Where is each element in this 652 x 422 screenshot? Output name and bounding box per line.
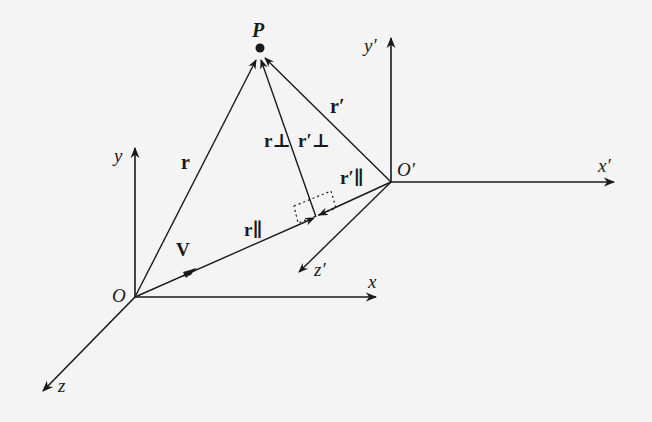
label-vector-r-parallel-prime: r′∥ (340, 167, 364, 188)
label-vector-v: V (176, 239, 190, 260)
label-o-prime: O′ (397, 159, 416, 180)
label-axis-y-prime: y′ (362, 35, 377, 56)
right-angle-marker (294, 191, 336, 223)
label-o: O (112, 285, 126, 306)
label-axis-z: z (57, 375, 66, 396)
label-p: P (251, 19, 265, 41)
label-axis-x: x (367, 271, 377, 292)
vector-r (135, 60, 256, 297)
label-vector-r-parallel: r∥ (244, 219, 263, 240)
vector-r-prime (265, 58, 391, 182)
coordinate-frames-diagram: P O O′ y x z y′ x′ z′ r r′ r⊥ r′⊥ r∥ r′∥… (0, 0, 652, 422)
velocity-arrow-icon (183, 268, 197, 278)
label-axis-z-prime: z′ (313, 259, 326, 280)
vector-r-parallel (135, 218, 314, 297)
label-axis-x-prime: x′ (597, 155, 611, 176)
point-p (256, 44, 265, 53)
label-vector-r-perp: r⊥ (264, 130, 291, 151)
axis-z (43, 297, 135, 391)
label-vector-r-prime: r′ (330, 95, 345, 117)
label-axis-y: y (112, 145, 123, 166)
diagram-canvas: P O O′ y x z y′ x′ z′ r r′ r⊥ r′⊥ r∥ r′∥… (0, 0, 652, 422)
axis-z-prime (299, 182, 391, 272)
label-vector-r-perp-prime: r′⊥ (298, 130, 330, 151)
label-vector-r: r (181, 151, 190, 173)
